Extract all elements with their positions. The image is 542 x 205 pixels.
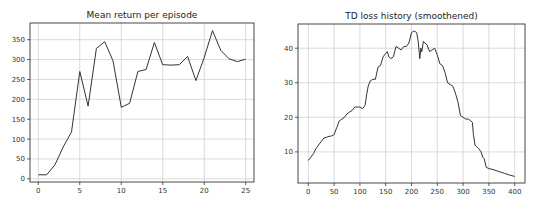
x-tick-label: 5 (78, 187, 82, 195)
y-tick-label: 250 (12, 76, 25, 84)
td-loss-plot: 05010015020025030035040010203040TD loss … (271, 0, 542, 205)
x-tick-label: 400 (508, 188, 521, 196)
y-tick-label: 20 (284, 114, 293, 122)
y-tick-label: 30 (284, 79, 293, 87)
x-tick-label: 100 (353, 188, 366, 196)
x-tick-label: 0 (36, 187, 40, 195)
chart-title: TD loss history (smoothened) (344, 11, 478, 21)
y-tick-label: 0 (21, 175, 25, 183)
y-tick-label: 200 (12, 96, 25, 104)
td-loss-chart: 05010015020025030035040010203040TD loss … (271, 0, 542, 205)
y-tick-label: 350 (12, 36, 25, 44)
data-series-line (38, 31, 245, 175)
mean-return-plot: 0510152025050100150200250300350Mean retu… (0, 0, 271, 205)
x-tick-label: 250 (431, 188, 444, 196)
y-tick-label: 100 (12, 136, 25, 144)
x-tick-label: 300 (456, 188, 469, 196)
x-tick-label: 200 (405, 188, 418, 196)
mean-return-chart: 0510152025050100150200250300350Mean retu… (0, 0, 271, 205)
y-tick-label: 40 (284, 45, 293, 53)
x-tick-label: 50 (330, 188, 339, 196)
x-tick-label: 10 (117, 187, 126, 195)
chart-title: Mean return per episode (87, 10, 198, 20)
axes-frame (30, 23, 254, 182)
x-tick-label: 20 (200, 187, 209, 195)
y-tick-label: 150 (12, 116, 25, 124)
x-tick-label: 350 (482, 188, 495, 196)
x-tick-label: 25 (241, 187, 250, 195)
x-tick-label: 15 (158, 187, 167, 195)
y-tick-label: 300 (12, 56, 25, 64)
y-tick-label: 50 (16, 155, 25, 163)
x-tick-label: 150 (379, 188, 392, 196)
y-tick-label: 10 (284, 148, 293, 156)
x-tick-label: 0 (306, 188, 310, 196)
